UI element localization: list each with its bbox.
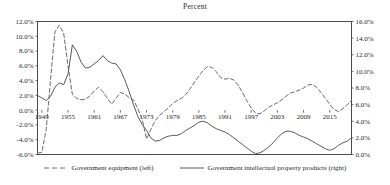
y-right-tick-label: 0.0% xyxy=(356,151,371,159)
x-tick-label: 2015 xyxy=(323,113,338,121)
series-layer xyxy=(38,25,352,153)
x-tick-label: 2003 xyxy=(270,113,285,121)
chart-legend: Government equipment (left) Government i… xyxy=(0,164,390,172)
x-axis-ticks: 1949195519611967197319791985199119972003… xyxy=(35,110,337,121)
y-left-tick-label: 4.0% xyxy=(19,77,34,85)
y-left-tick-label: -6.0% xyxy=(17,151,34,159)
chart-container: Percent -6.0%-4.0%-2.0%0.0%2.0%4.0%6.0%8… xyxy=(0,0,390,185)
y-right-tick-label: 14.0% xyxy=(356,35,374,43)
legend-item-government-equipment: Government equipment (left) xyxy=(44,164,154,172)
legend-label-government-ipp: Government intellectual property product… xyxy=(208,165,347,172)
y-right-tick-label: 10.0% xyxy=(356,68,374,76)
y-right-tick-label: 8.0% xyxy=(356,84,371,92)
x-tick-label: 1991 xyxy=(218,113,233,121)
y-left-tick-label: -4.0% xyxy=(17,136,34,144)
y-left-tick-label: 6.0% xyxy=(19,62,34,70)
y-left-tick-label: 0.0% xyxy=(19,107,34,115)
legend-label-government-equipment: Government equipment (left) xyxy=(72,165,154,172)
y-right-tick-label: 4.0% xyxy=(356,118,371,126)
y-axis-left-ticks: -6.0%-4.0%-2.0%0.0%2.0%4.0%6.0%8.0%10.0%… xyxy=(15,18,37,159)
y-right-tick-label: 12.0% xyxy=(356,51,374,59)
x-tick-label: 1961 xyxy=(87,113,102,121)
chart-plot: -6.0%-4.0%-2.0%0.0%2.0%4.0%6.0%8.0%10.0%… xyxy=(0,0,390,185)
y-left-tick-label: 10.0% xyxy=(15,33,33,41)
legend-swatch-dashed xyxy=(44,164,68,172)
y-left-tick-label: 2.0% xyxy=(19,92,34,100)
y-left-tick-label: 12.0% xyxy=(15,18,33,26)
x-tick-label: 1955 xyxy=(61,113,76,121)
y-right-tick-label: 16.0% xyxy=(356,18,374,26)
legend-item-government-ipp: Government intellectual property product… xyxy=(180,164,347,172)
legend-swatch-solid xyxy=(180,164,204,172)
x-tick-label: 1967 xyxy=(113,113,128,121)
x-tick-label: 2009 xyxy=(297,113,312,121)
series-line-0 xyxy=(38,25,352,153)
y-right-tick-label: 6.0% xyxy=(356,101,371,109)
x-tick-label: 1997 xyxy=(244,113,259,121)
y-left-tick-label: -2.0% xyxy=(17,121,34,129)
y-right-tick-label: 2.0% xyxy=(356,134,371,142)
y-axis-right-ticks: 0.0%2.0%4.0%6.0%8.0%10.0%12.0%14.0%16.0% xyxy=(352,18,374,159)
x-tick-label: 1979 xyxy=(166,113,181,121)
y-left-tick-label: 8.0% xyxy=(19,47,34,55)
x-tick-label: 1985 xyxy=(192,113,207,121)
